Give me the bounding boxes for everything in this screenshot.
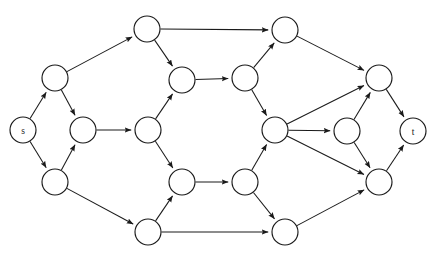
graph-edge	[386, 145, 403, 171]
node-circle	[232, 169, 258, 195]
graph-edge	[67, 37, 132, 72]
graph-node-s[interactable]: s	[10, 117, 36, 143]
graph-edge	[156, 94, 173, 119]
graph-edge	[195, 79, 228, 80]
graph-edge	[297, 190, 364, 226]
node-circle	[42, 65, 68, 91]
graph-edge	[354, 142, 370, 167]
node-circle	[135, 117, 161, 143]
graph-node[interactable]	[262, 117, 288, 143]
graph-edge	[156, 196, 173, 221]
graph-edge	[354, 92, 370, 119]
graph-edge	[252, 90, 267, 116]
graph-node[interactable]	[334, 118, 360, 144]
graph-edge	[67, 188, 133, 224]
graph-node[interactable]	[169, 67, 195, 93]
graph-edge	[30, 142, 46, 168]
node-circle	[169, 67, 195, 93]
graph-node[interactable]	[366, 169, 392, 195]
node-circle	[70, 117, 96, 143]
node-circle	[366, 65, 392, 91]
node-circle	[135, 219, 161, 245]
graph-canvas: st	[0, 0, 436, 258]
graph-node-t[interactable]: t	[400, 118, 426, 144]
graph-node[interactable]	[272, 17, 298, 43]
node-circle	[232, 65, 258, 91]
graph-edge	[287, 86, 364, 124]
graph-edge	[254, 43, 275, 68]
graph-node[interactable]	[42, 65, 68, 91]
graph-node[interactable]	[169, 169, 195, 195]
node-circle	[366, 169, 392, 195]
graph-edge	[30, 92, 46, 118]
graph-edge	[252, 145, 267, 171]
graph-edge	[289, 130, 331, 131]
graph-edge	[61, 145, 75, 170]
node-label: s	[21, 126, 25, 136]
node-circle	[134, 16, 160, 42]
graph-node[interactable]	[42, 169, 68, 195]
node-circle	[334, 118, 360, 144]
graph-edge	[297, 36, 364, 70]
graph-node[interactable]	[134, 16, 160, 42]
node-circle	[169, 169, 195, 195]
graph-node[interactable]	[135, 219, 161, 245]
node-circle	[272, 17, 298, 43]
graph-node[interactable]	[70, 117, 96, 143]
graph-edge	[161, 29, 269, 30]
node-layer: st	[10, 16, 426, 245]
node-label: t	[412, 127, 415, 137]
node-circle	[272, 219, 298, 245]
graph-node[interactable]	[366, 65, 392, 91]
graph-edge	[386, 89, 404, 117]
graph-node[interactable]	[135, 117, 161, 143]
graph-edge	[253, 193, 274, 219]
node-circle	[262, 117, 288, 143]
graph-node[interactable]	[272, 219, 298, 245]
graph-node[interactable]	[232, 65, 258, 91]
graph-edge	[155, 141, 172, 168]
node-circle	[42, 169, 68, 195]
graph-edge	[61, 90, 75, 115]
graph-edge	[155, 40, 173, 66]
flow-network-diagram: st	[0, 0, 436, 258]
graph-node[interactable]	[232, 169, 258, 195]
